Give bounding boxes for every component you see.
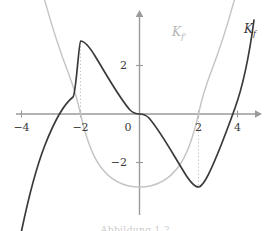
x-tick-label-zero: 0 xyxy=(125,121,132,134)
x-tick-label-minus4: −4 xyxy=(13,121,29,134)
curve-label-k-f-prime: K f' xyxy=(171,25,186,41)
y-tick-label-plus2: 2 xyxy=(120,59,127,72)
figure-container: −4 −2 0 2 4 2 −2 K f' K f Abbildung 1.2 xyxy=(0,0,271,231)
curve-label-k-f: K f xyxy=(243,22,258,38)
svg-text:f': f' xyxy=(180,32,186,41)
x-tick-label-plus4: 4 xyxy=(234,121,241,134)
y-axis xyxy=(136,10,144,215)
y-tick-label-minus2: −2 xyxy=(111,156,127,169)
x-tick-label-minus2: −2 xyxy=(72,121,88,134)
cubic-and-derivative-plot: −4 −2 0 2 4 2 −2 K f' K f xyxy=(0,0,271,231)
svg-text:f: f xyxy=(252,29,258,38)
cropped-caption: Abbildung 1.2 xyxy=(0,221,271,231)
x-tick-label-plus2: 2 xyxy=(195,121,202,134)
